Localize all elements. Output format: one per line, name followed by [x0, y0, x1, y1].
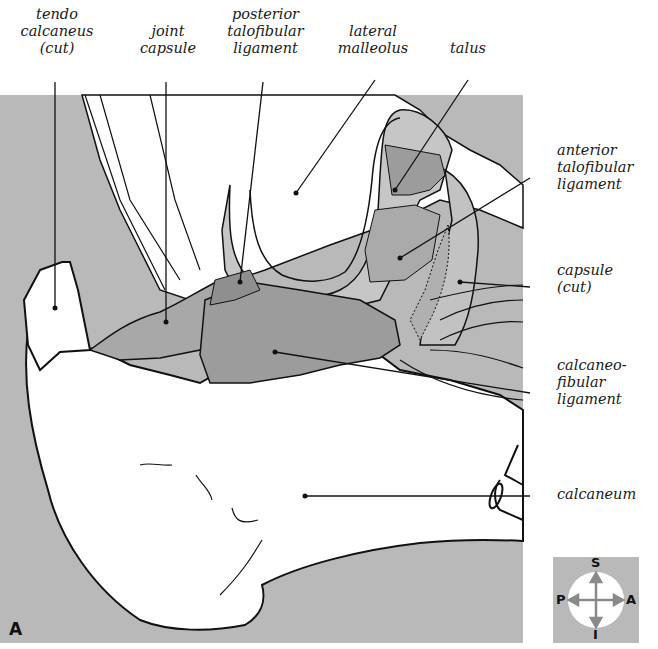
compass-inferior: I — [593, 627, 598, 642]
label-posterior-talofibular-ligament: posterior talofibular ligament — [218, 6, 313, 57]
label-line: posterior — [218, 6, 313, 23]
label-line: lateral — [328, 23, 418, 40]
label-line: capsule — [557, 262, 613, 279]
label-line: malleolus — [328, 40, 418, 57]
label-line: capsule — [128, 40, 208, 57]
label-tendo-calcaneus: tendo calcaneus (cut) — [12, 6, 102, 57]
label-line: ligament — [218, 40, 313, 57]
label-anterior-talofibular-ligament: anterior talofibular ligament — [557, 142, 633, 193]
label-line: anterior — [557, 142, 633, 159]
label-calcaneofibular-ligament: calcaneo- fibular ligament — [557, 357, 627, 408]
label-line: fibular — [557, 374, 627, 391]
label-line: calcaneo- — [557, 357, 627, 374]
label-line: tendo — [12, 6, 102, 23]
label-calcaneum: calcaneum — [557, 486, 636, 503]
compass-posterior: P — [556, 592, 566, 607]
panel-letter: A — [9, 619, 22, 639]
label-line: ligament — [557, 391, 627, 408]
label-capsule-cut: capsule (cut) — [557, 262, 613, 296]
label-line: (cut) — [12, 40, 102, 57]
label-line: ligament — [557, 176, 633, 193]
orientation-compass: S I P A — [553, 557, 639, 643]
label-lateral-malleolus: lateral malleolus — [328, 23, 418, 57]
label-line: joint — [128, 23, 208, 40]
compass-anterior: A — [626, 592, 636, 607]
label-line: talofibular — [218, 23, 313, 40]
label-line: talus — [438, 40, 498, 57]
label-talus: talus — [438, 40, 498, 57]
label-line: (cut) — [557, 279, 613, 296]
label-joint-capsule: joint capsule — [128, 23, 208, 57]
compass-superior: S — [591, 555, 600, 570]
label-line: calcaneus — [12, 23, 102, 40]
label-line: talofibular — [557, 159, 633, 176]
label-line: calcaneum — [557, 486, 636, 503]
ankle-ligament-illustration — [0, 0, 658, 649]
